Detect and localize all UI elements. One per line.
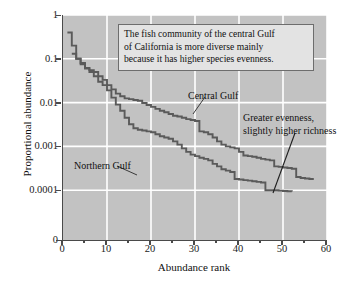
central-gulf-label: Central Gulf <box>188 90 238 103</box>
x-tick-label: 0 <box>59 244 64 255</box>
y-tick-mark <box>56 58 61 60</box>
northern-gulf-label: Northern Gulf <box>74 160 131 173</box>
x-tick-label: 20 <box>145 244 156 255</box>
x-tick-label: 10 <box>101 244 112 255</box>
x-minor-tick-mark <box>259 240 261 243</box>
figure-root: 10.10.010.0010.00010 0102030405060 Abund… <box>0 0 354 282</box>
x-minor-tick-mark <box>171 240 173 243</box>
y-tick-mark <box>56 240 61 242</box>
y-tick-mark <box>56 15 61 17</box>
x-minor-tick-mark <box>303 240 305 243</box>
x-minor-tick-mark <box>83 240 85 243</box>
greater-evenness-line-2: slightly higher richness <box>243 125 336 138</box>
x-minor-tick-mark <box>215 240 217 243</box>
x-minor-tick-mark <box>127 240 129 243</box>
callout-line-1: The fish community of the central Gulf <box>124 28 308 41</box>
x-tick-label: 30 <box>189 244 200 255</box>
y-tick-mark <box>56 102 61 104</box>
y-tick-label: 0.0001 <box>29 185 58 196</box>
greater-evenness-label: Greater evenness, slightly higher richne… <box>243 112 336 137</box>
callout-line-2: of California is more diverse mainly <box>124 41 308 54</box>
x-tick-mark <box>325 240 327 245</box>
x-tick-mark <box>149 240 151 245</box>
y-tick-mark <box>56 146 61 148</box>
x-tick-mark <box>193 240 195 245</box>
y-axis-title: Proportional abundance <box>21 34 33 214</box>
callout-line-3: because it has higher species evenness. <box>124 53 308 66</box>
x-tick-mark <box>105 240 107 245</box>
x-tick-label: 40 <box>233 244 244 255</box>
x-tick-mark <box>61 240 63 245</box>
callout-box: The fish community of the central Gulf o… <box>118 24 314 71</box>
y-tick-label: 0.001 <box>34 141 58 152</box>
x-axis-title: Abundance rank <box>62 261 326 273</box>
greater-evenness-line-1: Greater evenness, <box>243 112 336 125</box>
x-tick-label: 60 <box>321 244 332 255</box>
x-tick-label: 50 <box>277 244 288 255</box>
y-tick-mark <box>56 190 61 192</box>
x-tick-mark <box>237 240 239 245</box>
x-tick-mark <box>281 240 283 245</box>
